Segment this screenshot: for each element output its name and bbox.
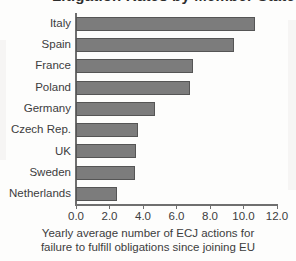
x-tick-label: 6.0 bbox=[169, 210, 185, 222]
bar-chart-figure: Litigation Rates by Member State Italy S… bbox=[0, 0, 296, 261]
bar-row: Poland bbox=[76, 77, 190, 98]
x-tick-mark bbox=[143, 204, 144, 209]
category-label: Spain bbox=[42, 39, 71, 51]
bar-italy bbox=[76, 17, 255, 31]
bar-row: Czech Rep. bbox=[76, 120, 138, 141]
bar-row: UK bbox=[76, 141, 136, 162]
x-tick-mark bbox=[277, 204, 278, 209]
category-label: Netherlands bbox=[9, 188, 71, 200]
bar-germany bbox=[76, 102, 155, 116]
x-tick-mark bbox=[76, 204, 77, 209]
bar-sweden bbox=[76, 166, 135, 180]
category-label: France bbox=[35, 60, 71, 72]
bar-row: Spain bbox=[76, 34, 234, 55]
category-label: Czech Rep. bbox=[11, 124, 71, 136]
x-tick-label: 0.0 bbox=[68, 210, 84, 222]
bar-czech-rep bbox=[76, 123, 138, 137]
x-tick-mark bbox=[109, 204, 110, 209]
x-axis-caption-line-2: failure to fulfill obligations since joi… bbox=[0, 240, 296, 254]
x-axis-caption: Yearly average number of ECJ actions for… bbox=[0, 226, 296, 254]
x-axis-caption-line-1: Yearly average number of ECJ actions for bbox=[0, 226, 296, 240]
plot-area: Italy Spain France Poland Germany Czech … bbox=[0, 0, 296, 261]
x-tick-label: 8.0 bbox=[202, 210, 218, 222]
x-tick-mark bbox=[243, 204, 244, 209]
x-tick-label: 4.0 bbox=[135, 210, 151, 222]
x-tick-label: 2.0 bbox=[102, 210, 118, 222]
bar-row: Germany bbox=[76, 98, 155, 119]
bar-row: Netherlands bbox=[76, 183, 117, 204]
category-label: Germany bbox=[24, 103, 71, 115]
category-label: Poland bbox=[35, 82, 71, 94]
x-tick-mark bbox=[176, 204, 177, 209]
category-label: Italy bbox=[50, 18, 71, 30]
x-tick-label: 10.0 bbox=[232, 210, 254, 222]
x-tick-mark bbox=[210, 204, 211, 209]
x-tick-label: 12.0 bbox=[266, 210, 288, 222]
bar-poland bbox=[76, 81, 190, 95]
bar-row: Italy bbox=[76, 13, 255, 34]
category-label: Sweden bbox=[29, 167, 71, 179]
bar-netherlands bbox=[76, 187, 117, 201]
bar-row: Sweden bbox=[76, 162, 135, 183]
category-label: UK bbox=[55, 146, 71, 158]
bar-uk bbox=[76, 144, 136, 158]
bar-row: France bbox=[76, 56, 193, 77]
bar-spain bbox=[76, 38, 234, 52]
bar-france bbox=[76, 59, 193, 73]
